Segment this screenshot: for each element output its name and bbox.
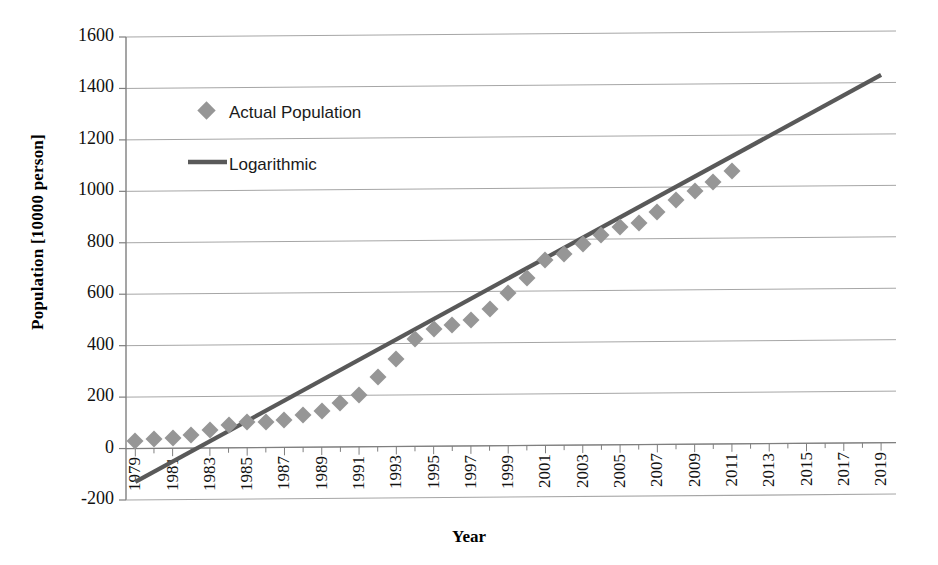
x-axis-tick-marks	[135, 443, 881, 457]
legend-item-actual-population-label: Actual Population	[229, 103, 361, 123]
y-axis-tick-marks	[119, 37, 126, 500]
gridline	[126, 391, 896, 397]
legend-diamond-icon	[197, 101, 215, 119]
gridline	[126, 31, 896, 37]
gridline	[126, 340, 896, 346]
chart-container: Population [10000 person] Year 160014001…	[0, 0, 938, 565]
plot-area	[0, 0, 938, 565]
x-axis-baseline	[126, 494, 896, 500]
gridline	[126, 82, 896, 88]
gridline	[126, 237, 896, 243]
legend-item-logarithmic-label: Logarithmic	[229, 155, 317, 175]
zero-line	[126, 443, 896, 449]
